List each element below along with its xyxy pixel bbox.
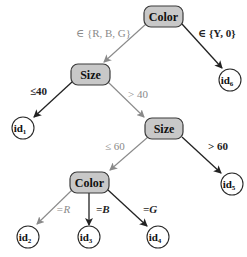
svg-text:Size: Size	[80, 68, 101, 82]
decision-node-size1: Size	[71, 64, 110, 85]
leaf-node-id4: id4	[147, 226, 169, 248]
edge-label-size2-color2: ≤ 60	[105, 140, 125, 152]
edge-label-size1-size2: > 40	[128, 88, 148, 100]
svg-text:Size: Size	[154, 122, 175, 136]
edge-label-color2-id3: =B	[96, 203, 110, 215]
leaf-node-id2: id2	[17, 226, 39, 248]
decision-node-root-color: Color	[144, 6, 183, 27]
leaf-node-id1: id1	[12, 117, 34, 139]
edge-label-root-id6: ∈ {Y, 0}	[198, 27, 236, 39]
edge-label-root-size1: ∈ {R, B, G}	[76, 27, 131, 39]
decision-node-size2: Size	[145, 118, 183, 139]
edge-color2-to-id4	[108, 190, 147, 226]
decision-node-color2: Color	[70, 172, 109, 193]
decision-tree-diagram: ∈ {R, B, G} ∈ {Y, 0} ≤40 > 40 ≤ 60 > 60 …	[0, 0, 247, 257]
edge-label-size1-id1: ≤40	[30, 85, 48, 97]
svg-text:Color: Color	[149, 10, 179, 24]
svg-text:Color: Color	[75, 176, 105, 190]
leaf-node-id6: id6	[219, 69, 241, 91]
edge-label-size2-id5: > 60	[208, 140, 229, 152]
edge-label-color2-id4: =G	[143, 203, 157, 215]
leaf-node-id3: id3	[78, 226, 100, 248]
leaf-node-id5: id5	[221, 173, 243, 195]
edge-label-color2-id2: =R	[56, 203, 70, 215]
